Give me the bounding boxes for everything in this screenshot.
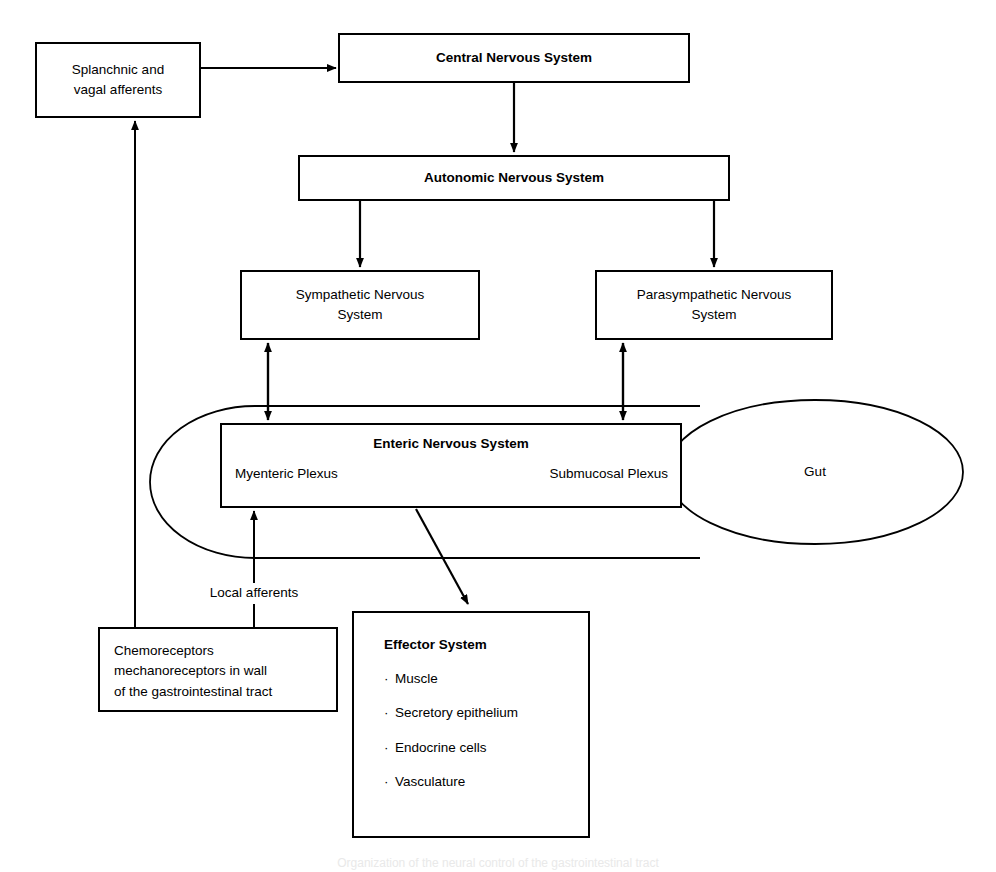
node-sympathetic-nervous-system[interactable]: Sympathetic Nervous System <box>240 270 480 340</box>
diagram-canvas: Splanchnic and vagal afferents Central N… <box>0 0 996 872</box>
parasympathetic-line-1: Parasympathetic Nervous <box>637 285 792 305</box>
edge-label-local-afferents: Local afferents <box>210 583 298 603</box>
ens-submucosal-plexus-label: Submucosal Plexus <box>549 464 668 484</box>
sympathetic-line-2: System <box>337 305 382 325</box>
sympathetic-line-1: Sympathetic Nervous <box>296 285 424 305</box>
effector-item-secretory-epithelium: ·Secretory epithelium <box>384 703 588 723</box>
effector-item-label: Secretory epithelium <box>395 705 518 720</box>
effector-item-label: Muscle <box>395 671 438 686</box>
chemoreceptors-line-3: of the gastrointestinal tract <box>114 682 336 702</box>
ans-label: Autonomic Nervous System <box>424 168 604 188</box>
effector-item-endocrine-cells: ·Endocrine cells <box>384 738 588 758</box>
ens-title: Enteric Nervous System <box>222 434 680 454</box>
parasympathetic-line-2: System <box>691 305 736 325</box>
effector-item-muscle: ·Muscle <box>384 669 588 689</box>
node-enteric-nervous-system[interactable]: Enteric Nervous System Myenteric Plexus … <box>220 423 682 508</box>
splanchnic-line-2: vagal afferents <box>74 80 162 100</box>
edge-ens-to-effector <box>416 509 468 604</box>
figure-caption: Organization of the neural control of th… <box>0 856 996 870</box>
splanchnic-line-1: Splanchnic and <box>72 60 164 80</box>
node-central-nervous-system[interactable]: Central Nervous System <box>338 33 690 83</box>
effector-system-title: Effector System <box>384 635 588 655</box>
effector-item-vasculature: ·Vasculature <box>384 772 588 792</box>
cns-label: Central Nervous System <box>436 48 592 68</box>
effector-item-label: Endocrine cells <box>395 740 487 755</box>
node-splanchnic-vagal-afferents[interactable]: Splanchnic and vagal afferents <box>35 42 201 118</box>
node-autonomic-nervous-system[interactable]: Autonomic Nervous System <box>298 155 730 201</box>
node-gut-label: Gut <box>804 462 826 482</box>
chemoreceptors-line-1: Chemoreceptors <box>114 641 336 661</box>
ens-myenteric-plexus-label: Myenteric Plexus <box>235 464 338 484</box>
effector-item-label: Vasculature <box>395 774 465 789</box>
bullet-icon: · <box>384 703 395 723</box>
chemoreceptors-line-2: mechanoreceptors in wall <box>114 661 336 681</box>
bullet-icon: · <box>384 669 395 689</box>
bullet-icon: · <box>384 738 395 758</box>
node-parasympathetic-nervous-system[interactable]: Parasympathetic Nervous System <box>595 270 833 340</box>
node-effector-system[interactable]: Effector System ·Muscle ·Secretory epith… <box>352 611 590 838</box>
node-chemoreceptors-mechanoreceptors[interactable]: Chemoreceptors mechanoreceptors in wall … <box>98 627 338 712</box>
bullet-icon: · <box>384 772 395 792</box>
